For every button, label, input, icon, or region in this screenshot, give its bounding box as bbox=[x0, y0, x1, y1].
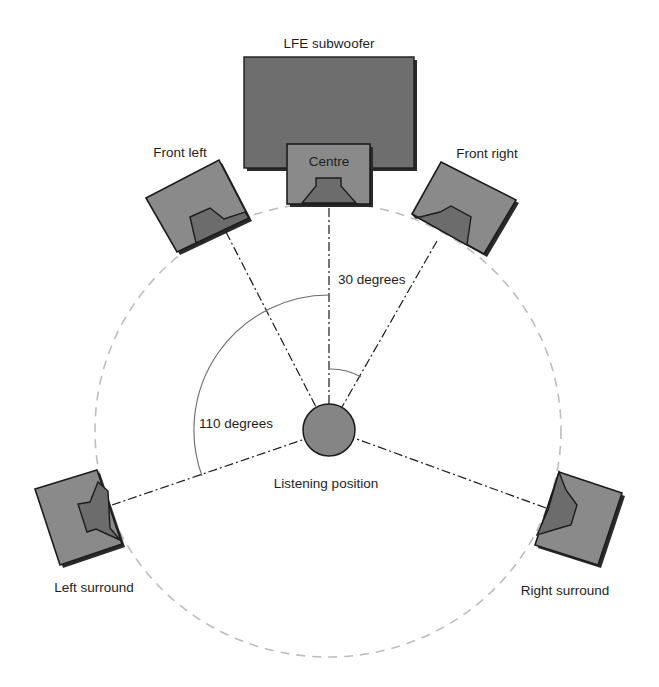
front-right-label: Front right bbox=[456, 146, 518, 161]
front-right-speaker: Front right bbox=[412, 146, 519, 257]
left-surround-speaker: Left surround bbox=[35, 470, 134, 595]
front-left-speaker: Front left bbox=[146, 145, 252, 255]
centre-label: Centre bbox=[309, 154, 350, 169]
listening-position-marker bbox=[303, 404, 355, 456]
subwoofer-label: LFE subwoofer bbox=[284, 36, 375, 51]
listening-position-label: Listening position bbox=[274, 476, 378, 491]
speaker-layout-diagram: LFE subwoofer Centre Front left Front ri… bbox=[0, 0, 659, 687]
angle-front-label: 30 degrees bbox=[338, 272, 406, 287]
axis-left-surround bbox=[112, 439, 305, 505]
angle-surround-label: 110 degrees bbox=[199, 416, 273, 431]
front-left-label: Front left bbox=[153, 145, 207, 160]
right-surround-speaker: Right surround bbox=[521, 472, 625, 598]
angle-arc-30 bbox=[330, 369, 361, 377]
right-surround-label: Right surround bbox=[521, 583, 610, 598]
angle-arc-110 bbox=[194, 295, 329, 476]
centre-speaker: Centre bbox=[287, 144, 373, 207]
axis-right-surround bbox=[354, 438, 546, 508]
left-surround-label: Left surround bbox=[54, 580, 134, 595]
axis-front-left bbox=[226, 232, 316, 407]
axis-front-right bbox=[342, 241, 437, 407]
